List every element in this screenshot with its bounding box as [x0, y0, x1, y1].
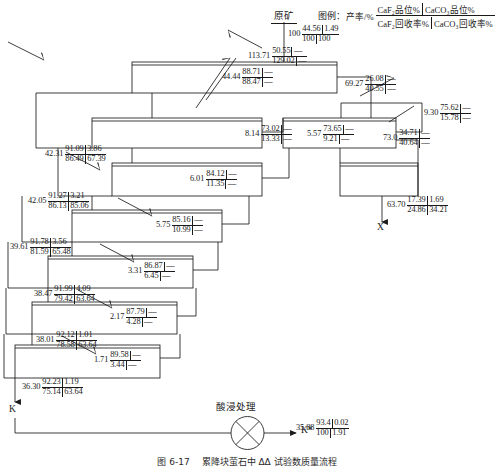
node-recovery-2: —	[296, 57, 307, 66]
node-recovery-2: 63.64	[74, 295, 95, 304]
node-recovery-1: 4.28	[126, 318, 140, 327]
node-recovery-2: 100	[316, 35, 331, 44]
node-grade-2: 3.86	[85, 145, 102, 154]
node-recovery-2: 65.48	[50, 248, 71, 257]
node-grade-2: —	[343, 125, 354, 134]
node-recovery-1: 129.02	[272, 57, 294, 66]
node-value-n11: 42.05 91.273.21 86.1385.06	[28, 192, 89, 211]
node-grade-1: 91.09	[65, 145, 83, 154]
node-recovery-1: 88.47	[242, 78, 260, 87]
node-rate: 2.17	[110, 313, 126, 322]
node-value-n8: 73.0 34.71— 40.64—	[383, 129, 430, 148]
node-recovery-1: 81.59	[30, 248, 48, 257]
node-recovery-2: —	[281, 135, 292, 144]
node-recovery-1: 100	[302, 35, 314, 44]
node-rate: 69.27	[345, 80, 365, 89]
node-recovery-1: 40.55	[365, 85, 383, 94]
node-rate: 5.75	[156, 221, 172, 230]
node-grade-1: 50.55	[272, 47, 290, 56]
node-value-n2: 113.71 50.55— 129.02—	[248, 47, 307, 66]
node-grade-1: 92.23	[42, 378, 60, 387]
node-rate: 44.44	[222, 73, 242, 82]
node-rate: 42.05	[28, 197, 48, 206]
node-rate: 3.31	[128, 267, 144, 276]
node-value-n19: 36.30 92.231.19 75.1463.64	[22, 378, 83, 397]
node-value-n13: 39.61 91.783.56 81.5965.48	[10, 238, 71, 257]
node-grade-2: 1.49	[322, 25, 339, 34]
output-tailings-label: X	[377, 222, 384, 232]
node-grade-2: 4.09	[74, 285, 91, 294]
node-grade-2: 3.21	[68, 192, 85, 201]
node-grade-2: —	[192, 216, 203, 225]
node-recovery-2: —	[225, 180, 236, 189]
output-product-kstar-label: K*	[301, 425, 313, 435]
node-rate: 8.14	[245, 130, 261, 139]
node-recovery-1: 79.42	[54, 295, 72, 304]
node-grade-2: 1.19	[62, 378, 79, 387]
node-recovery-2: —	[460, 114, 471, 123]
node-recovery-1: 3.44	[110, 361, 124, 370]
node-grade-2: —	[262, 68, 273, 77]
node-value-n18: 1.71 89.58— 3.44—	[94, 351, 141, 370]
node-recovery-1: 13.33	[261, 135, 279, 144]
node-rate: 9.30	[424, 109, 440, 118]
node-grade-2: 1.69	[427, 196, 444, 205]
figure-caption: 图 6-17 累降块萤石中 ΔΔ 试验数质量流程	[0, 455, 494, 468]
node-grade-2: —	[291, 47, 302, 56]
node-grade-2: —	[226, 170, 237, 179]
node-recovery-1: 24.86	[407, 206, 425, 215]
node-rate: 73.0	[383, 134, 399, 143]
node-grade-2: —	[460, 104, 471, 113]
node-value-feed: 100 44.561.49 100100	[288, 25, 339, 44]
node-recovery-1: 86.49	[65, 155, 83, 164]
node-grade-1: 44.56	[302, 25, 320, 34]
node-rate: 6.01	[190, 175, 206, 184]
legend-rate-label: 产率/%	[346, 10, 376, 22]
node-value-n14: 3.31 86.87— 6.45—	[128, 262, 175, 281]
node-value-n20: 63.70 17.391.69 24.8634.21	[387, 196, 448, 215]
node-recovery-1: 86.13	[48, 202, 66, 211]
node-value-n16: 2.17 87.79— 4.28—	[110, 308, 157, 327]
output-concentrate-k-label: K	[9, 404, 16, 414]
node-grade-2: —	[281, 125, 292, 134]
node-rate: 38.01	[36, 336, 56, 345]
node-recovery-1: 9.21	[323, 135, 337, 144]
node-value-n6: 8.14 73.02— 13.33—	[245, 125, 292, 144]
node-grade-2: 3.56	[50, 238, 67, 247]
node-value-n17: 38.01 92.121.01 78.5863.64	[36, 331, 97, 350]
node-rate: 1.71	[94, 356, 110, 365]
node-recovery-2: 67.39	[85, 155, 106, 164]
legend-grade-caco3: CaCO₃品位%	[422, 3, 477, 15]
node-value-n12: 5.75 85.16— 10.99—	[156, 216, 203, 235]
node-grade-2: —	[146, 308, 157, 317]
node-recovery-2: —	[385, 85, 396, 94]
node-value-n10: 6.01 84.12— 11.35—	[190, 170, 237, 189]
node-value-n15: 38.47 91.994.09 79.4263.64	[34, 285, 95, 304]
legend-recovery-caco3: CaCO₃回收率%	[431, 17, 495, 29]
node-grade-2: —	[130, 351, 141, 360]
node-recovery-1: 15.78	[440, 114, 458, 123]
node-grade-1: 93.4	[316, 419, 330, 428]
node-recovery-2: —	[262, 78, 273, 87]
node-rate: 113.71	[248, 52, 272, 61]
node-recovery-1: 6.45	[144, 272, 158, 281]
node-grade-1: 87.79	[126, 308, 144, 317]
node-grade-1: 26.08	[365, 75, 383, 84]
node-value-n9: 42.31 91.093.86 86.4967.39	[45, 145, 106, 164]
node-recovery-2: 63.64	[62, 388, 83, 397]
legend-recovery-caf2: CaF₂回收率%	[376, 17, 431, 29]
node-grade-2: —	[419, 129, 430, 138]
node-grade-1: 91.27	[48, 192, 66, 201]
node-grade-1: 17.39	[407, 196, 425, 205]
legend-prefix: 图例：	[318, 9, 346, 22]
node-value-n4: 69.27 26.08— 40.55—	[345, 75, 396, 94]
node-recovery-1: 75.14	[42, 388, 60, 397]
node-rate: 63.70	[387, 201, 407, 210]
node-rate: 100	[288, 30, 302, 39]
node-grade-2: 1.01	[76, 331, 93, 340]
node-grade-1: 73.02	[261, 125, 279, 134]
node-recovery-2: —	[339, 135, 350, 144]
node-recovery-2: —	[126, 361, 137, 370]
node-recovery-1: 78.58	[56, 341, 74, 350]
